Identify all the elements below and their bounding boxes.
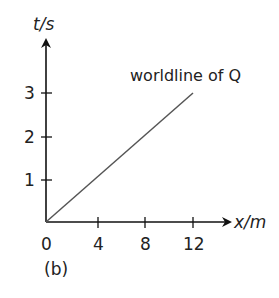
x-tick-label-4: 4 bbox=[93, 234, 104, 254]
x-tick-label-8: 8 bbox=[140, 234, 151, 254]
x-tick-label-0: 0 bbox=[41, 234, 52, 254]
y-tick-label-2: 2 bbox=[24, 127, 35, 147]
x-axis-label: x/m bbox=[233, 212, 266, 232]
spacetime-diagram: t/s x/m 3 2 1 0 4 8 12 worldline of Q (b… bbox=[0, 0, 279, 298]
y-tick-label-1: 1 bbox=[24, 170, 35, 190]
y-tick-label-3: 3 bbox=[24, 83, 35, 103]
x-tick-label-12: 12 bbox=[183, 234, 205, 254]
figure-caption: (b) bbox=[44, 259, 68, 279]
worldline-annotation: worldline of Q bbox=[130, 66, 241, 85]
y-axis-label: t/s bbox=[33, 14, 54, 34]
worldline-of-q bbox=[46, 93, 193, 222]
